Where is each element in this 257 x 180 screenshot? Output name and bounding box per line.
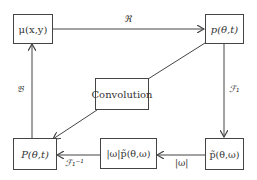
- label-backprojection: 𝔅: [17, 84, 23, 95]
- node-ptilde: p̃(θ,ω): [205, 138, 244, 170]
- node-convolution: Convolution: [95, 78, 149, 110]
- node-omega-ptilde: |ω|p̃(θ,ω): [100, 138, 157, 169]
- label-omega: |ω|: [175, 158, 188, 168]
- label-fourier: ℱ₁: [229, 84, 240, 94]
- node-P: P(θ,t): [13, 138, 57, 170]
- node-mu: μ(x,y): [13, 14, 53, 44]
- node-p: p(θ,t): [205, 14, 244, 44]
- label-radon: ℜ: [124, 14, 131, 24]
- diagram: μ(x,y) p(θ,t) Convolution P(θ,t) |ω|p̃(θ…: [0, 0, 257, 180]
- label-inverse-fourier: ℱ₁⁻¹: [65, 158, 84, 168]
